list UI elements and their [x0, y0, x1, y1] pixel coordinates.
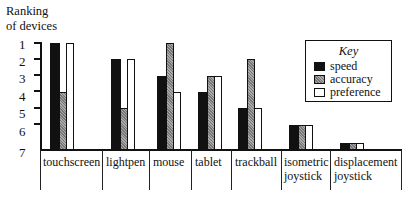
y-tick — [34, 123, 42, 125]
bar-preference — [356, 143, 364, 150]
category-label: tablet — [195, 155, 222, 169]
category-divider — [281, 150, 282, 190]
category-label-line1: isometric — [284, 155, 329, 169]
category-label-line2: joystick — [284, 169, 329, 183]
y-tick-label: 4 — [19, 90, 33, 104]
bar-preference — [66, 43, 74, 150]
legend-swatch-preference — [314, 88, 325, 97]
legend-title: Key — [306, 44, 391, 59]
category-divider — [231, 150, 232, 190]
legend-swatch-accuracy — [314, 75, 325, 84]
y-tick-label: 7 — [19, 146, 33, 160]
y-tick-label: 6 — [19, 125, 33, 139]
y-tick — [34, 58, 42, 60]
bar-preference — [127, 59, 135, 150]
category-divider — [330, 150, 331, 190]
y-tick — [34, 90, 42, 92]
category-divider — [40, 150, 41, 190]
y-axis-title-line1: Ranking — [6, 4, 57, 19]
category-divider — [191, 150, 192, 190]
category-label: lightpen — [106, 155, 145, 169]
category-label: isometric joystick — [284, 155, 329, 183]
bar-preference — [254, 108, 262, 150]
y-tick — [34, 42, 42, 44]
category-label: trackball — [235, 155, 277, 169]
category-divider — [149, 150, 150, 190]
y-tick-label: 3 — [19, 72, 33, 86]
category-label-line2: joystick — [334, 169, 397, 183]
category-label-line1: displacement — [334, 155, 397, 169]
bar-preference — [173, 92, 181, 150]
y-tick-label: 5 — [19, 107, 33, 121]
category-divider — [401, 150, 402, 190]
bar-preference — [305, 125, 313, 151]
bar-preference — [214, 76, 222, 150]
y-axis-title: Ranking of devices — [6, 4, 57, 34]
category-label: mouse — [153, 155, 184, 169]
category-label: displacement joystick — [334, 155, 397, 183]
y-tick — [34, 74, 42, 76]
legend: Key speed accuracy preference — [305, 40, 392, 102]
y-tick-label: 2 — [19, 55, 33, 69]
y-tick-label: 1 — [19, 38, 33, 52]
category-divider — [102, 150, 103, 190]
y-tick — [34, 107, 42, 109]
legend-swatch-speed — [314, 62, 325, 71]
category-label: touchscreen — [43, 155, 100, 169]
legend-label-preference: preference — [330, 86, 381, 99]
y-axis-title-line2: of devices — [6, 19, 57, 34]
